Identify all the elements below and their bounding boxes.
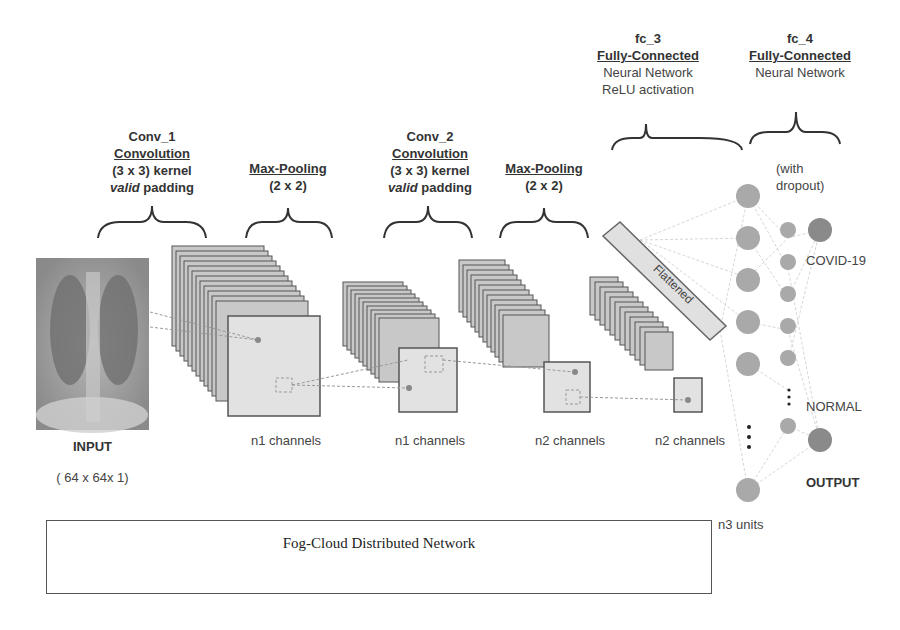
fc4-label: fc_4 Fully-Connected Neural Network bbox=[744, 30, 856, 81]
conv2-label: Conv_2 Convolution (3 x 3) kernel valid … bbox=[378, 128, 482, 196]
input-shape: ( 64 x 64x 1) bbox=[36, 469, 149, 486]
feature-maps-pool1 bbox=[343, 282, 457, 412]
units-label: n3 units bbox=[718, 516, 764, 533]
output-class-covid: COVID-19 bbox=[806, 252, 866, 269]
fog-cloud-label: Fog-Cloud Distributed Network bbox=[47, 535, 711, 552]
output-label: OUTPUT bbox=[806, 474, 859, 491]
dropout-note: (with dropout) bbox=[776, 160, 824, 194]
channels-4: n2 channels bbox=[640, 432, 740, 449]
channels-2: n1 channels bbox=[380, 432, 480, 449]
pool2-label: Max-Pooling (2 x 2) bbox=[496, 160, 592, 194]
channels-1: n1 channels bbox=[236, 432, 336, 449]
input-label: INPUT bbox=[36, 438, 149, 455]
fc4-nodes bbox=[780, 222, 796, 434]
fc4-ellipsis-icon bbox=[787, 388, 790, 405]
feature-maps-conv1 bbox=[172, 246, 320, 416]
fc3-ellipsis-icon bbox=[747, 425, 751, 449]
fc3-label: fc_3 Fully-Connected Neural Network ReLU… bbox=[592, 30, 704, 98]
output-class-normal: NORMAL bbox=[806, 398, 862, 415]
channels-3: n2 channels bbox=[520, 432, 620, 449]
pool1-label: Max-Pooling (2 x 2) bbox=[240, 160, 336, 194]
conv1-label: Conv_1 Convolution (3 x 3) kernel valid … bbox=[100, 128, 204, 196]
fog-cloud-box: Fog-Cloud Distributed Network bbox=[46, 520, 712, 594]
feature-maps-conv2 bbox=[459, 260, 590, 412]
fc3-nodes bbox=[736, 184, 760, 502]
xray-image bbox=[36, 258, 149, 433]
